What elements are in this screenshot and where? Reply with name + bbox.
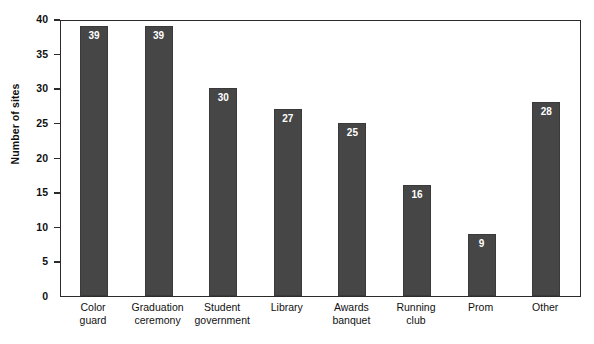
- bar: 25: [338, 123, 366, 296]
- bar-value-label: 9: [469, 238, 495, 249]
- y-axis-tick-label: 40: [0, 13, 48, 25]
- y-axis-tick-label: 20: [0, 152, 48, 164]
- x-axis-category-label: Other: [500, 301, 590, 314]
- x-label-line1: Student: [204, 301, 240, 313]
- bar-value-label: 27: [275, 113, 301, 124]
- figure-caption: [8, 337, 478, 344]
- x-label-line1: Graduation: [132, 301, 184, 313]
- x-label-line2: club: [371, 314, 461, 327]
- y-axis-tick-label: 0: [0, 290, 48, 302]
- x-label-line1: Prom: [468, 301, 493, 313]
- x-label-line2: government: [177, 314, 267, 327]
- bar-chart-figure: Number of sites 0510152025303540 3939302…: [0, 0, 594, 344]
- bar: 39: [145, 26, 173, 296]
- y-axis-tick-label: 35: [0, 48, 48, 60]
- bar-value-label: 28: [533, 106, 559, 117]
- bar: 27: [274, 109, 302, 296]
- plot-area: 393930272516928: [60, 20, 581, 297]
- bar-value-label: 39: [81, 30, 107, 41]
- bar-value-label: 39: [146, 30, 172, 41]
- y-axis-tick-label: 5: [0, 255, 48, 267]
- y-axis-tick-label: 25: [0, 117, 48, 129]
- x-label-line1: Color: [80, 301, 105, 313]
- bar: 16: [403, 185, 431, 296]
- bar: 9: [468, 234, 496, 296]
- x-label-line1: Other: [532, 301, 558, 313]
- bar-value-label: 25: [339, 127, 365, 138]
- y-axis-tick-label: 30: [0, 82, 48, 94]
- x-label-line1: Library: [271, 301, 303, 313]
- bar: 39: [80, 26, 108, 296]
- y-axis-tick-label: 10: [0, 221, 48, 233]
- bar: 28: [532, 102, 560, 296]
- x-label-line1: Running: [396, 301, 435, 313]
- bar-value-label: 16: [404, 189, 430, 200]
- bar: 30: [209, 88, 237, 296]
- x-label-line1: Awards: [334, 301, 369, 313]
- y-axis-tick-label: 15: [0, 186, 48, 198]
- bar-value-label: 30: [210, 92, 236, 103]
